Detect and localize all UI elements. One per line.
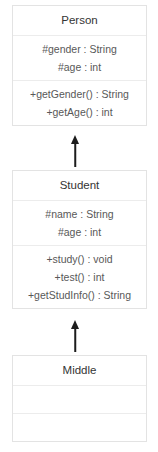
uml-class-middle[interactable]: Middle [12, 355, 147, 442]
arrow-shaft [74, 142, 76, 167]
class-name-student: Student [13, 171, 146, 200]
attribute-item: #name : String [16, 205, 143, 223]
arrow-shaft [74, 327, 76, 352]
attribute-item: #gender : String [16, 40, 143, 58]
inheritance-arrow-student-to-person [68, 135, 82, 167]
method-item: +study() : void [16, 250, 143, 268]
methods-compartment-student: +study() : void +test() : int +getStudIn… [13, 245, 146, 308]
attribute-item: #age : int [16, 223, 143, 241]
method-item: +test() : int [16, 268, 143, 286]
method-item: +getGender() : String [16, 85, 143, 103]
attribute-item: #age : int [16, 58, 143, 76]
uml-class-person[interactable]: Person #gender : String #age : int +getG… [12, 5, 147, 126]
method-item: +getAge() : int [16, 103, 143, 121]
attributes-compartment-student: #name : String #age : int [13, 200, 146, 245]
inheritance-arrow-middle-to-student [68, 320, 82, 352]
attributes-compartment-middle [13, 385, 146, 413]
methods-compartment-middle [13, 413, 146, 441]
attributes-compartment-person: #gender : String #age : int [13, 35, 146, 80]
method-item: +getStudInfo() : String [16, 286, 143, 304]
uml-class-student[interactable]: Student #name : String #age : int +study… [12, 170, 147, 309]
class-name-middle: Middle [13, 356, 146, 385]
class-name-person: Person [13, 6, 146, 35]
methods-compartment-person: +getGender() : String +getAge() : int [13, 80, 146, 125]
uml-class-diagram: Person #gender : String #age : int +getG… [0, 0, 158, 452]
